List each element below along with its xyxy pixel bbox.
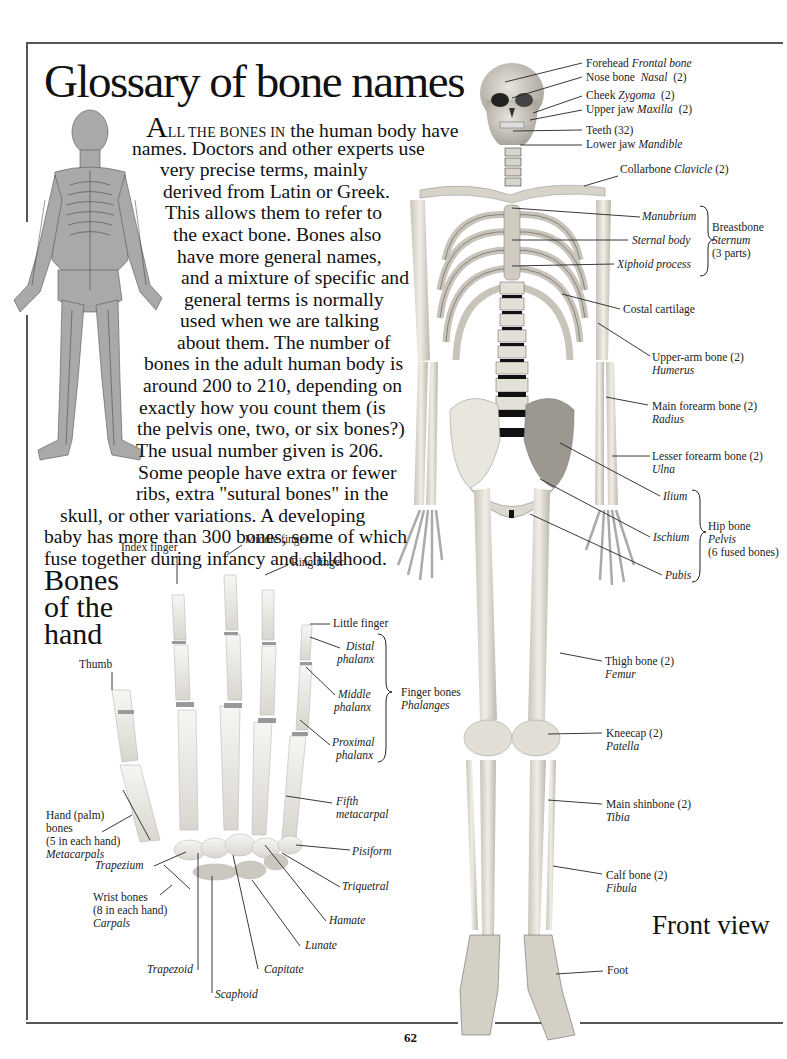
label-common: Collarbone xyxy=(620,163,671,175)
label-teeth: Teeth (32) xyxy=(586,124,633,137)
label-common: Kneecap (2) xyxy=(606,727,663,740)
label-lunate: Lunate xyxy=(305,939,337,952)
intro-line: names. Doctors and other experts use xyxy=(132,138,425,160)
label-note: (3 parts) xyxy=(712,247,764,260)
label-capitate: Capitate xyxy=(264,963,304,976)
label-proximal-phalanx: Proximal phalanx xyxy=(332,736,374,762)
label-pisiform: Pisiform xyxy=(352,845,392,858)
label-line: metacarpal xyxy=(336,808,388,821)
intro-line: and a mixture of specific and xyxy=(181,267,409,289)
label-latin: Sternum xyxy=(712,234,764,247)
intro-line: The usual number given is 206. xyxy=(136,440,383,462)
label-latin: Humerus xyxy=(652,364,744,377)
label-wrist-bones: Wrist bones (8 in each hand) Carpals xyxy=(93,891,167,930)
hand-section-heading: Bones of the hand xyxy=(44,566,119,647)
label-latin: Manubrium xyxy=(642,210,696,222)
label-latin: Maxilla xyxy=(637,103,673,115)
label-text: Scaphoid xyxy=(215,988,258,1000)
label-foot: Foot xyxy=(607,964,628,977)
label-latin: Ulna xyxy=(652,463,763,476)
intro-line: have more general names, xyxy=(177,246,382,268)
label-forehead: Forehead Frontal bone xyxy=(586,57,692,70)
intro-line: the exact bone. Bones also xyxy=(173,224,381,246)
intro-line: very precise terms, mainly xyxy=(160,159,368,181)
label-main-shinbone: Main shinbone (2) Tibia xyxy=(606,798,691,824)
label-line: Carpals xyxy=(93,917,167,930)
label-breastbone: Breastbone Sternum (3 parts) xyxy=(712,221,764,260)
label-latin: Pelvis xyxy=(708,533,779,546)
intro-line: baby has more than 300 bones, some of wh… xyxy=(44,526,407,548)
label-latin: Zygoma xyxy=(618,89,655,101)
label-finger-bones: Finger bones Phalanges xyxy=(401,686,461,712)
label-latin: Tibia xyxy=(606,811,691,824)
label-latin: Mandible xyxy=(638,138,682,150)
label-nose-bone: Nose bone Nasal (2) xyxy=(586,71,687,84)
label-line: Finger bones xyxy=(401,686,461,699)
intro-line: the pelvis one, two, or six bones?) xyxy=(137,418,405,440)
label-latin: Ilium xyxy=(663,490,687,502)
label-latin: Fibula xyxy=(606,882,667,895)
label-line: Wrist bones xyxy=(93,891,167,904)
label-common: Nose bone xyxy=(586,71,635,83)
intro-line: skull, or other variations. A developing xyxy=(60,505,365,527)
intro-line: around 200 to 210, depending on xyxy=(143,375,402,397)
label-middle-phalanx: Middle phalanx xyxy=(334,688,371,714)
intro-line: This allows them to refer to xyxy=(165,202,382,224)
label-index-finger: Index finger xyxy=(121,541,178,554)
label-little-finger: Little finger xyxy=(333,617,388,630)
label-lesser-forearm-bone: Lesser forearm bone (2) Ulna xyxy=(652,450,763,476)
label-text: Capitate xyxy=(264,963,304,975)
label-latin: Nasal xyxy=(641,71,668,83)
label-common: Lower jaw xyxy=(586,138,636,150)
heading-line: Bones xyxy=(44,566,119,593)
label-trapezium: Trapezium xyxy=(95,859,144,872)
label-ilium: Ilium xyxy=(663,490,687,503)
label-latin: Radius xyxy=(652,413,757,426)
label-upper-jaw: Upper jaw Maxilla (2) xyxy=(586,103,692,116)
label-common: Forehead xyxy=(586,57,629,69)
label-line: Fifth xyxy=(336,795,388,808)
label-latin: Patella xyxy=(606,740,663,753)
label-xiphoid-process: Xiphoid process xyxy=(617,258,691,271)
label-thigh-bone: Thigh bone (2) Femur xyxy=(605,655,674,681)
label-middle-finger: Middle finger xyxy=(245,533,309,546)
label-latin: Clavicle xyxy=(674,163,712,175)
label-line: phalanx xyxy=(332,749,374,762)
label-count: (2) xyxy=(661,89,674,101)
label-common: Thigh bone (2) xyxy=(605,655,674,668)
label-text: Trapezoid xyxy=(147,963,193,975)
label-line: Phalanges xyxy=(401,699,461,712)
intro-line: general terms is normally xyxy=(184,289,384,311)
label-count: (2) xyxy=(679,103,692,115)
label-triquetral: Triquetral xyxy=(342,880,389,893)
label-kneecap: Kneecap (2) Patella xyxy=(606,727,663,753)
label-line: Hand (palm) xyxy=(46,809,120,822)
label-common: Calf bone (2) xyxy=(606,869,667,882)
label-scaphoid: Scaphoid xyxy=(215,988,258,1001)
page-title: Glossary of bone names xyxy=(44,54,464,108)
label-main-forearm-bone: Main forearm bone (2) Radius xyxy=(652,400,757,426)
intro-line: derived from Latin or Greek. xyxy=(163,181,390,203)
label-common: Breastbone xyxy=(712,221,764,234)
label-hamate: Hamate xyxy=(329,914,365,927)
label-line: bones xyxy=(46,822,120,835)
label-line: Proximal xyxy=(332,736,374,749)
label-latin: Sternal body xyxy=(632,234,690,246)
label-sternal-body: Sternal body xyxy=(632,234,690,247)
label-latin: Frontal bone xyxy=(632,57,692,69)
label-cheek: Cheek Zygoma (2) xyxy=(586,89,675,102)
label-text: Triquetral xyxy=(342,880,389,892)
label-common: Main forearm bone (2) xyxy=(652,400,757,413)
label-count: (2) xyxy=(715,163,728,175)
label-common: Lesser forearm bone (2) xyxy=(652,450,763,463)
label-line: phalanx xyxy=(334,701,371,714)
intro-line: bones in the adult human body is xyxy=(144,353,403,375)
label-fifth-metacarpal: Fifth metacarpal xyxy=(336,795,388,821)
leader-lines xyxy=(505,63,662,974)
label-calf-bone: Calf bone (2) Fibula xyxy=(606,869,667,895)
label-common: Upper jaw xyxy=(586,103,634,115)
page-number: 62 xyxy=(404,1030,417,1046)
label-note: (6 fused bones) xyxy=(708,546,779,559)
label-common: Main shinbone (2) xyxy=(606,798,691,811)
heading-line: hand xyxy=(44,620,119,647)
